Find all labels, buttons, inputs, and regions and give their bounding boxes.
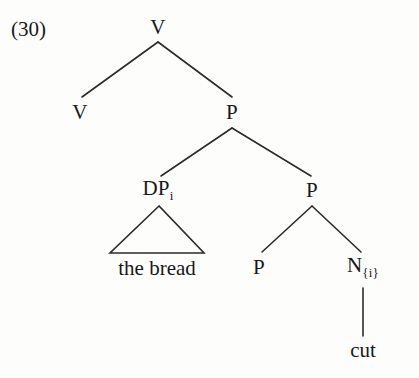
edge-mid-p-to-n [312, 206, 361, 252]
edge-upper-p-to-dp [161, 128, 232, 176]
dp-triangle [110, 206, 204, 253]
node-n-text: N [347, 253, 362, 277]
node-root-v: V [150, 17, 165, 38]
edge-mid-p-to-lower-p [262, 206, 312, 252]
terminal-the-bread: the bread [118, 258, 196, 279]
node-n: N{i} [347, 255, 379, 279]
node-n-subscript: {i} [362, 265, 379, 280]
node-dp-subscript: i [170, 188, 174, 203]
example-number: (30) [11, 19, 46, 40]
node-dp-text: DP [142, 176, 169, 200]
node-lower-p: P [253, 257, 265, 278]
node-dp: DPi [142, 178, 173, 202]
syntax-tree-figure: (30) V V P DPi P P N{i} the bread cut [0, 0, 419, 378]
terminal-cut: cut [350, 340, 376, 361]
edge-root-to-left-v [82, 42, 158, 97]
node-left-v: V [72, 102, 87, 123]
tree-branch-lines [0, 0, 419, 378]
edge-root-to-upper-p [158, 42, 232, 97]
edge-upper-p-to-mid-p [232, 128, 311, 176]
node-mid-p: P [306, 180, 318, 201]
node-upper-p: P [226, 102, 238, 123]
